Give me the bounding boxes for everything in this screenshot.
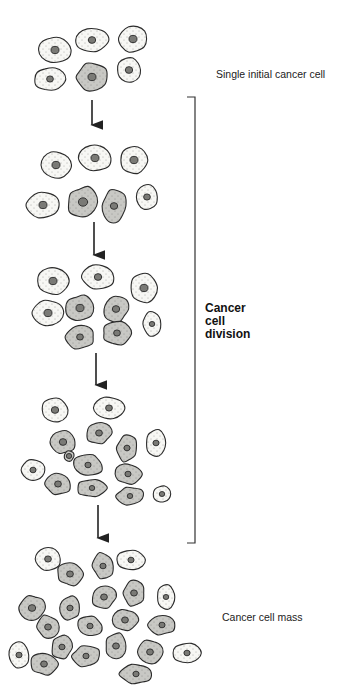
nucleus <box>88 37 95 44</box>
nucleus <box>125 471 131 477</box>
nucleus <box>66 454 72 459</box>
nucleus <box>16 652 22 658</box>
cancer-cell <box>45 473 71 494</box>
nucleus <box>30 467 36 473</box>
nucleus <box>45 556 52 562</box>
nucleus <box>87 623 93 629</box>
nucleus <box>106 405 113 411</box>
nucleus <box>184 650 190 656</box>
nucleus <box>125 67 132 74</box>
cancer-cell <box>138 640 164 664</box>
nucleus <box>94 274 101 281</box>
cancer-cell <box>68 186 97 216</box>
cancer-cell <box>92 552 113 578</box>
normal-cell <box>9 642 29 668</box>
normal-cell <box>81 265 113 289</box>
cancer-cell <box>71 646 99 667</box>
normal-cell <box>136 185 157 210</box>
nucleus <box>159 622 165 628</box>
nucleus <box>131 590 138 596</box>
stage-4 <box>21 397 171 505</box>
normal-cell <box>93 397 125 419</box>
label-cancer-cell-mass: Cancer cell mass <box>222 611 303 623</box>
cancer-cell-division-diagram <box>0 0 339 700</box>
label-cancer-cell-division: Cancer cell division <box>205 302 250 341</box>
nucleus <box>77 334 84 340</box>
nucleus <box>128 557 134 563</box>
cell-stages <box>9 26 201 684</box>
nucleus <box>91 154 99 161</box>
nucleus <box>28 605 35 612</box>
division-bracket <box>187 97 195 543</box>
stage-5 <box>9 548 201 684</box>
nucleus <box>49 277 57 284</box>
cancer-cell <box>104 321 132 345</box>
normal-cell <box>131 273 157 302</box>
normal-cell <box>78 145 111 171</box>
nucleus <box>129 35 137 42</box>
nucleus <box>78 198 87 206</box>
nucleus <box>112 306 119 313</box>
normal-cell <box>35 548 60 571</box>
nucleus <box>59 644 65 650</box>
cancer-cell <box>92 586 116 608</box>
nucleus <box>114 330 121 336</box>
cancer-cell <box>58 563 84 586</box>
bracket-line <box>187 97 195 543</box>
normal-cell <box>42 398 68 422</box>
nucleus <box>44 309 52 316</box>
cancer-cell <box>78 479 107 496</box>
cancer-cell <box>37 615 60 638</box>
nucleus <box>59 439 66 446</box>
label-single-initial-cancer-cell: Single initial cancer cell <box>216 68 325 80</box>
nucleus <box>41 661 48 667</box>
cancer-cell <box>112 610 138 631</box>
cancer-cell <box>74 454 103 475</box>
cancer-cell <box>102 189 126 222</box>
nucleus <box>89 485 95 490</box>
nucleus <box>85 462 91 468</box>
cancer-cell <box>76 63 107 91</box>
normal-cell <box>38 268 70 295</box>
cancer-cell <box>78 616 102 635</box>
nucleus <box>39 201 47 208</box>
nucleus <box>101 594 108 600</box>
normal-cell <box>158 585 175 610</box>
nucleus <box>88 73 96 80</box>
cancer-cell <box>104 296 129 322</box>
normal-cell <box>143 312 161 337</box>
nucleus <box>76 304 84 311</box>
nucleus <box>130 156 138 163</box>
normal-cell <box>153 486 170 502</box>
cancer-cell <box>148 616 175 635</box>
cancer-cell <box>87 423 112 444</box>
nucleus <box>45 624 52 630</box>
nucleus <box>83 653 89 659</box>
stage-1 <box>35 26 147 91</box>
nucleus <box>147 649 154 655</box>
nucleus <box>153 440 159 446</box>
cancer-cell <box>65 325 93 349</box>
cancer-cell <box>116 435 136 462</box>
cancer-cell <box>116 487 144 505</box>
nucleus <box>51 407 58 414</box>
label-division-line-3: division <box>205 328 250 341</box>
normal-cell <box>117 550 145 569</box>
nucleus <box>124 445 130 451</box>
nucleus <box>113 643 120 649</box>
normal-cell <box>41 152 72 178</box>
normal-cell <box>39 37 72 62</box>
nucleus <box>110 203 117 210</box>
cancer-cell <box>115 464 142 484</box>
nucleus <box>133 671 139 677</box>
cancer-cell <box>119 664 152 683</box>
nucleus <box>67 571 74 577</box>
nucleus <box>100 563 106 569</box>
cancer-cell <box>66 295 94 321</box>
normal-cell <box>35 68 66 90</box>
nucleus <box>144 194 151 200</box>
nucleus <box>122 617 129 623</box>
cancer-cell <box>19 596 46 621</box>
normal-cell <box>32 300 64 325</box>
nucleus <box>140 284 148 291</box>
